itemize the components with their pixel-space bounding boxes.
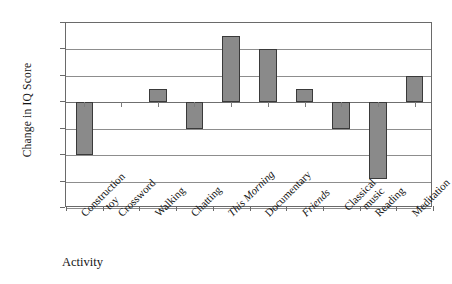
x-tick-inner: [415, 102, 416, 107]
x-tick-inner: [121, 102, 122, 107]
bar: [222, 36, 240, 102]
y-tick-mark: [60, 154, 65, 155]
bar: [296, 89, 314, 102]
bar: [149, 89, 167, 102]
bar: [259, 49, 277, 102]
bar: [369, 102, 387, 179]
x-tick-inner: [305, 102, 306, 107]
x-tick-mark: [433, 206, 434, 211]
y-axis-title: Change in IQ Score: [21, 15, 33, 205]
bar: [76, 102, 94, 155]
y-tick-mark: [60, 128, 65, 129]
x-tick-inner: [378, 102, 379, 107]
y-tick-mark: [60, 48, 65, 49]
x-tick-inner: [84, 102, 85, 107]
x-tick-inner: [194, 102, 195, 107]
y-tick-mark: [60, 101, 65, 102]
bar: [406, 76, 424, 102]
y-tick-mark: [60, 181, 65, 182]
x-tick-inner: [268, 102, 269, 107]
x-axis-category-labels: ConstructiontoyCrosswordWalkingChattingT…: [65, 207, 432, 284]
x-tick-inner: [158, 102, 159, 107]
y-tick-mark: [60, 22, 65, 23]
y-tick-mark: [60, 75, 65, 76]
x-tick-inner: [341, 102, 342, 107]
x-tick-inner: [231, 102, 232, 107]
x-axis-title: Activity: [62, 255, 103, 270]
